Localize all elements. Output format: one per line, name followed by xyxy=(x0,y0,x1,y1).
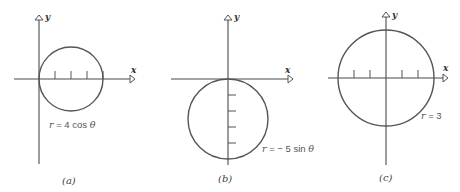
x-axis-label: x xyxy=(442,63,449,73)
panel-c: y x r = 3 (c) xyxy=(328,10,449,183)
panel-b: y x r = − 5 sin θ (b) xyxy=(171,12,314,184)
panel-caption: (b) xyxy=(218,173,232,184)
y-axis-ticks xyxy=(228,95,236,143)
x-axis-arrow-icon xyxy=(443,74,448,82)
equation-label: r = 3 xyxy=(421,110,442,121)
x-axis-arrow-icon xyxy=(288,75,293,83)
panel-a: y x r = 4 cos θ (a) xyxy=(14,12,137,186)
x-axis-label: x xyxy=(130,65,137,75)
y-axis-arrow-icon xyxy=(224,15,232,20)
x-axis-ticks xyxy=(55,71,103,79)
y-axis-arrow-icon xyxy=(35,15,43,20)
panel-caption: (c) xyxy=(379,172,393,183)
y-axis-label: y xyxy=(391,10,398,20)
equation-label: r = − 5 sin θ xyxy=(262,143,314,154)
equation-label: r = 4 cos θ xyxy=(49,119,96,130)
y-axis-label: y xyxy=(44,12,51,22)
panel-caption: (a) xyxy=(62,175,76,186)
x-axis-arrow-icon xyxy=(130,75,135,83)
y-axis-label: y xyxy=(233,12,240,22)
polar-graphs-figure: y x r = 4 cos θ (a) y x xyxy=(0,0,460,192)
x-axis-label: x xyxy=(284,65,291,75)
y-axis-arrow-icon xyxy=(382,12,390,17)
